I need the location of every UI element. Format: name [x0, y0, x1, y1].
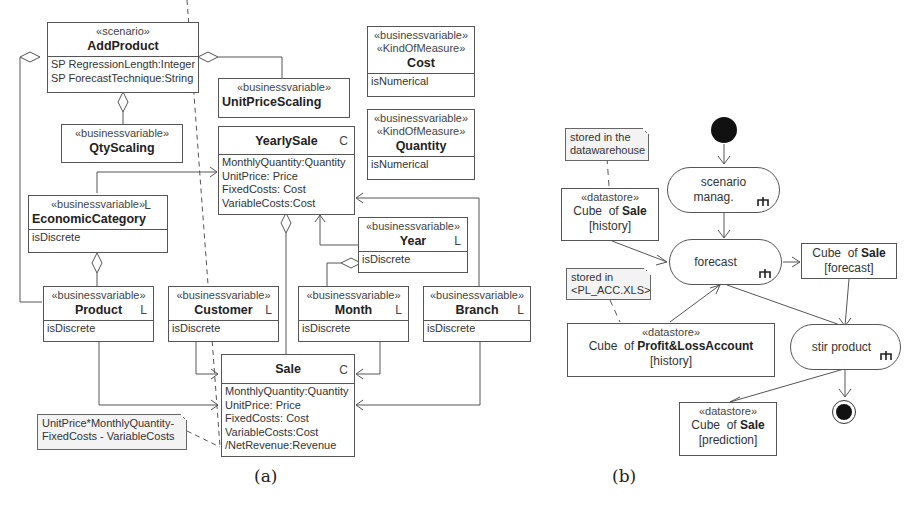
action-label: scenario: [701, 175, 746, 190]
stereotype-label: «datastore»: [565, 191, 655, 204]
class-name: QtyScaling: [65, 140, 179, 156]
note-line: stored in: [571, 271, 646, 284]
datastore-profit-loss-history: «datastore» Cube of Profit&LossAccount […: [567, 323, 775, 377]
caption-a: (a): [254, 466, 277, 486]
stereotype-label: «businessvariable»: [302, 289, 405, 302]
stereotype-label: «businessvariable»: [427, 289, 527, 302]
cube-prefix: Cube of: [589, 339, 638, 353]
class-marker: L: [140, 303, 147, 317]
action-forecast: forecast: [669, 239, 782, 285]
attribute: VariableCosts:Cost: [225, 426, 351, 440]
stereotype-label: «KindOfMeasure»: [371, 125, 471, 138]
action-label: stir product: [812, 340, 871, 355]
class-marker: L: [454, 234, 461, 248]
attribute: UnitPrice: Price: [225, 399, 351, 413]
note-line: stored in the: [570, 131, 644, 144]
class-marker: L: [395, 303, 402, 317]
cube-prefix: Cube of: [812, 246, 861, 260]
class-cost: «businessvariable» «KindOfMeasure» Cost …: [367, 26, 475, 97]
note-net-revenue-formula: UnitPrice*MonthlyQuantity- FixedCosts - …: [37, 414, 187, 450]
class-yearly-sale: YearlySale C MonthlyQuantity:Quantity Un…: [218, 126, 355, 215]
note-pl-acc-xls: stored in <PL_ACC.XLS>: [566, 268, 651, 300]
class-unit-price-scaling: «businessvariable» UnitPriceScaling: [218, 78, 350, 118]
class-name: Sale: [225, 361, 351, 377]
class-name: Branch: [427, 302, 527, 318]
class-qty-scaling: «businessvariable» QtyScaling: [61, 124, 183, 163]
class-marker: C: [339, 363, 348, 377]
stereotype-label: «datastore»: [683, 405, 773, 418]
attribute: isDiscrete: [172, 322, 275, 336]
attribute: MonthlyQuantity:Quantity: [225, 385, 351, 399]
action-label: forecast: [694, 255, 737, 270]
stereotype-label: «businessvariable»: [371, 112, 471, 125]
attribute: isNumerical: [371, 158, 471, 172]
action-scenario-manag: scenario manag.: [667, 167, 780, 213]
stereotype-label: «businessvariable»: [172, 289, 275, 302]
caption-b: (b): [612, 466, 636, 486]
class-month: «businessvariable» Month L isDiscrete: [298, 286, 409, 342]
rake-icon: [757, 197, 769, 206]
stereotype-label: «businessvariable»: [362, 220, 464, 233]
class-name: Customer: [172, 302, 275, 318]
stereotype-label: «businessvariable»: [65, 127, 179, 140]
cube-name: Sale: [622, 204, 647, 218]
attribute: isDiscrete: [427, 322, 527, 336]
class-add-product: «scenario» AddProduct SP RegressionLengt…: [47, 22, 199, 93]
object-state: [history]: [571, 354, 771, 369]
note-line: UnitPrice*MonthlyQuantity-: [42, 417, 182, 430]
class-branch: «businessvariable» Branch L isDiscrete: [423, 286, 531, 342]
action-label: manag.: [693, 190, 733, 205]
class-name: Product: [47, 302, 150, 318]
class-name: YearlySale: [222, 133, 351, 149]
class-name: Cost: [371, 55, 471, 71]
cube-prefix: Cube of: [691, 418, 740, 432]
attribute: VariableCosts:Cost: [222, 197, 351, 211]
class-customer: «businessvariable» Customer L isDiscrete: [168, 286, 279, 342]
attribute: FixedCosts: Cost: [222, 183, 351, 197]
attribute: SP ForecastTechnique:String: [51, 72, 195, 86]
attribute: MonthlyQuantity:Quantity: [222, 156, 351, 170]
class-quantity: «businessvariable» «KindOfMeasure» Quant…: [367, 109, 475, 180]
attribute: isNumerical: [371, 75, 471, 89]
class-economic-category: «businessvariable» L EconomicCategory is…: [28, 195, 168, 253]
cube-name: Profit&LossAccount: [637, 339, 753, 353]
stereotype-label: «datastore»: [571, 326, 771, 339]
stereotype-label: «scenario»: [51, 25, 195, 38]
cube-prefix: Cube of: [573, 204, 622, 218]
class-name: AddProduct: [51, 38, 195, 54]
initial-node: [711, 117, 737, 143]
rake-icon: [759, 269, 771, 278]
note-line: datawarehouse: [570, 144, 644, 157]
class-marker: L: [517, 303, 524, 317]
attribute: FixedCosts: Cost: [225, 412, 351, 426]
attribute: isDiscrete: [32, 231, 164, 245]
stereotype-label: «businessvariable»: [371, 29, 471, 42]
class-year: «businessvariable» Year L isDiscrete: [358, 217, 468, 273]
class-product: «businessvariable» Product L isDiscrete: [43, 286, 154, 342]
rake-icon: [880, 351, 892, 360]
attribute: isDiscrete: [302, 322, 405, 336]
object-state: [history]: [565, 219, 655, 234]
object-state: [forecast]: [805, 261, 893, 276]
action-stir-product: stir product: [790, 324, 901, 370]
note-datawarehouse: stored in the datawarehouse: [565, 128, 649, 161]
attribute: isDiscrete: [47, 322, 150, 336]
datastore-sale-history: «datastore» Cube of Sale [history]: [561, 188, 659, 241]
cube-name: Sale: [740, 418, 765, 432]
stereotype-label: «KindOfMeasure»: [371, 42, 471, 55]
class-marker: L: [144, 198, 151, 212]
datastore-sale-prediction: «datastore» Cube of Sale [prediction]: [679, 402, 777, 456]
stereotype-label: «businessvariable»: [222, 81, 346, 94]
class-marker: C: [339, 134, 348, 148]
class-name: Quantity: [371, 138, 471, 154]
note-line: FixedCosts - VariableCosts: [42, 430, 182, 443]
datastore-sale-forecast: Cube of Sale [forecast]: [801, 243, 897, 279]
class-name: EconomicCategory: [32, 211, 164, 227]
final-node: [832, 400, 856, 424]
attribute: isDiscrete: [362, 253, 464, 267]
class-name: Month: [302, 302, 405, 318]
stereotype-label: «businessvariable»: [47, 289, 150, 302]
class-sale: Sale C MonthlyQuantity:Quantity UnitPric…: [221, 354, 355, 457]
attribute: SP RegressionLength:Integer: [51, 58, 195, 72]
attribute: /NetRevenue:Revenue: [225, 439, 351, 453]
